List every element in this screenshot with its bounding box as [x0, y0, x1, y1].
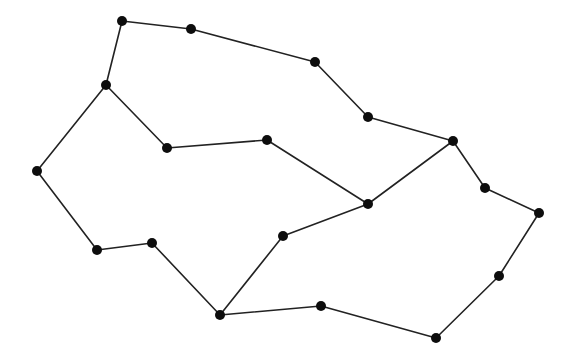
edge-2-3 [315, 62, 368, 117]
edge-0-5 [106, 21, 122, 85]
node-9 [32, 166, 42, 176]
edge-5-6 [106, 85, 167, 148]
edge-6-7 [167, 140, 267, 148]
node-18 [494, 271, 504, 281]
edge-7-8 [267, 140, 368, 204]
node-5 [101, 80, 111, 90]
edge-12-14 [220, 306, 321, 315]
edge-5-9 [37, 85, 106, 171]
edge-12-13 [220, 236, 283, 315]
node-14 [316, 301, 326, 311]
node-13 [278, 231, 288, 241]
edge-1-2 [191, 29, 315, 62]
node-10 [92, 245, 102, 255]
edge-13-8 [283, 204, 368, 236]
node-11 [147, 238, 157, 248]
nodes-layer [32, 16, 544, 343]
graph-canvas [0, 0, 574, 359]
graph-diagram [0, 0, 574, 359]
node-4 [448, 136, 458, 146]
node-15 [431, 333, 441, 343]
edge-10-11 [97, 243, 152, 250]
node-0 [117, 16, 127, 26]
edge-11-12 [152, 243, 220, 315]
node-3 [363, 112, 373, 122]
edge-0-1 [122, 21, 191, 29]
node-16 [480, 183, 490, 193]
node-1 [186, 24, 196, 34]
edge-14-15 [321, 306, 436, 338]
edge-9-10 [37, 171, 97, 250]
node-12 [215, 310, 225, 320]
node-7 [262, 135, 272, 145]
edge-3-4 [368, 117, 453, 141]
edge-16-17 [485, 188, 539, 213]
node-6 [162, 143, 172, 153]
node-8 [363, 199, 373, 209]
node-2 [310, 57, 320, 67]
node-17 [534, 208, 544, 218]
edge-18-15 [436, 276, 499, 338]
edge-8-4 [368, 141, 453, 204]
edge-4-16 [453, 141, 485, 188]
edges-layer [37, 21, 539, 338]
edge-17-18 [499, 213, 539, 276]
